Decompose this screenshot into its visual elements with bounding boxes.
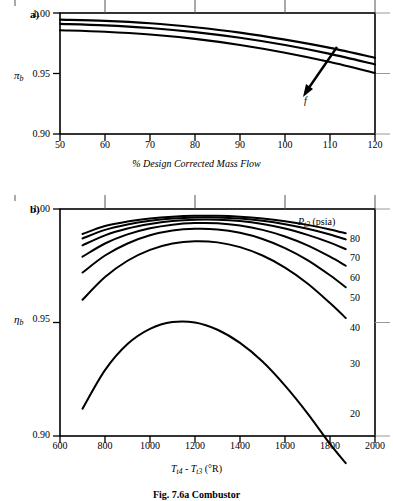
panel-a-plot <box>0 0 393 195</box>
panel-a-y-ticks <box>53 13 60 134</box>
curve-30 <box>83 241 346 318</box>
panel-b-y-ticks <box>53 209 60 436</box>
panel-b-top-ticks <box>15 195 375 209</box>
panel-a-right-ticks <box>375 13 390 134</box>
curve-f-high <box>60 30 375 73</box>
panel-a-x-ticks <box>60 134 375 141</box>
curve-20 <box>83 321 346 463</box>
curve-40 <box>83 229 346 288</box>
panel-b: b) ηb 1.00 0.95 0.90 600 800 1000 1200 1… <box>0 195 393 501</box>
panel-a: a) πb 1.00 0.95 0.90 50 60 70 80 90 100 … <box>0 0 393 195</box>
panel-a-trend-arrow <box>303 47 337 97</box>
panel-b-plot <box>0 195 393 501</box>
panel-b-right-ticks <box>375 209 390 436</box>
panel-a-top-ticks <box>15 0 375 13</box>
panel-b-data-curves <box>83 216 346 464</box>
figure-caption: Fig. 7.6a Combustor <box>0 489 393 500</box>
combustor-figure: a) πb 1.00 0.95 0.90 50 60 70 80 90 100 … <box>0 0 393 501</box>
panel-a-data-curves <box>60 20 375 73</box>
